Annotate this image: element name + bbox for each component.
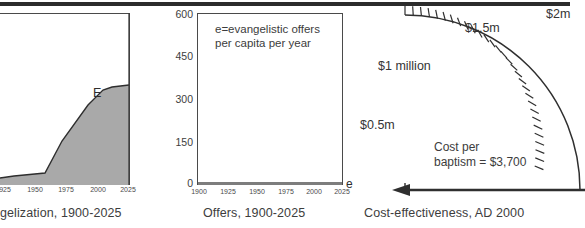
x-tick-2025: 2025 — [334, 188, 350, 195]
offers-x-axis-ticks: 1900 1925 1950 1975 2000 2025 — [197, 188, 343, 198]
y-tick-450: 450 — [175, 50, 193, 62]
x-tick-1975: 1975 — [58, 186, 74, 193]
evangelization-series-label: E — [93, 86, 101, 100]
y-tick-300: 300 — [175, 93, 193, 105]
x-tick-1950: 1950 — [27, 186, 43, 193]
offers-annotation-note: e=evangelistic offers per capita per yea… — [215, 22, 320, 50]
offers-zero-line — [198, 182, 342, 185]
x-tick-1975: 1975 — [278, 188, 294, 195]
y-tick-600: 600 — [175, 8, 193, 20]
evangelization-x-axis-ticks: 925 1950 1975 2000 2025 — [0, 186, 131, 196]
x-tick-1925: 1925 — [220, 188, 236, 195]
x-tick-2000: 2000 — [306, 188, 322, 195]
panel-evangelization: E 925 1950 1975 2000 2025 gelization, 19… — [0, 0, 152, 228]
x-tick-1925: 925 — [0, 186, 11, 193]
evangelization-caption: gelization, 1900-2025 — [0, 206, 122, 220]
evangelization-area-chart — [0, 13, 131, 185]
gauge-label-1-million: $1 million — [378, 59, 431, 73]
y-tick-150: 150 — [175, 136, 193, 148]
x-tick-2025: 2025 — [120, 186, 136, 193]
offers-caption: Offers, 1900-2025 — [203, 206, 305, 220]
cost-effectiveness-caption: Cost-effectiveness, AD 2000 — [364, 206, 524, 220]
panel-offers: 600 450 300 150 0 e=evangelistic offers … — [168, 0, 358, 228]
gauge-pointer-arrowhead — [392, 184, 410, 196]
x-tick-1900: 1900 — [191, 188, 207, 195]
x-tick-2000: 2000 — [90, 186, 106, 193]
x-tick-1950: 1950 — [249, 188, 265, 195]
gauge-label-2m: $2m — [546, 7, 570, 21]
gauge-label-1-5m: $1.5m — [465, 21, 500, 35]
panel-cost-effectiveness: $0.5m $1 million $1.5m $2m Cost per bapt… — [360, 0, 585, 228]
cost-per-baptism-note: Cost per baptism = $3,700 — [434, 140, 526, 169]
gauge-label-0-5m: $0.5m — [360, 118, 395, 132]
